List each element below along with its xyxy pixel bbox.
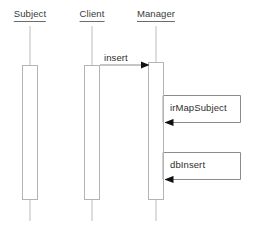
participant-label-client[interactable]: Client xyxy=(80,8,105,22)
message-label-insert[interactable]: insert xyxy=(104,52,128,63)
activation-bar-subject xyxy=(23,66,38,200)
sequence-diagram-canvas: Subject Client Manager insert irMapSubje… xyxy=(0,0,254,228)
activation-bar-client xyxy=(85,66,100,200)
diagram-vector-layer xyxy=(0,0,254,228)
message-label-irmapsubject[interactable]: irMapSubject xyxy=(170,102,227,113)
message-label-dbinsert[interactable]: dbInsert xyxy=(170,159,205,170)
participant-label-manager[interactable]: Manager xyxy=(137,8,175,22)
activation-bar-manager xyxy=(149,63,164,200)
participant-label-subject[interactable]: Subject xyxy=(14,8,46,22)
activation-bars-group xyxy=(23,63,164,200)
